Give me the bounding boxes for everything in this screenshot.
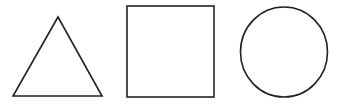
square-shape — [127, 6, 214, 97]
shapes-diagram — [0, 0, 343, 107]
circle-shape — [241, 7, 328, 97]
triangle-shape — [13, 17, 102, 96]
